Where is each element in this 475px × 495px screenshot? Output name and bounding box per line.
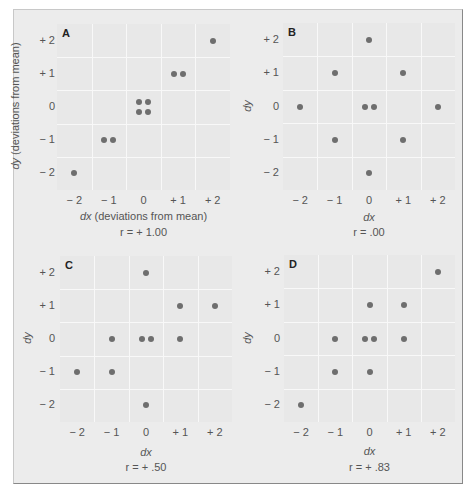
data-point	[298, 402, 304, 408]
data-point	[435, 269, 441, 275]
x-axis-description: (deviations from mean)	[92, 210, 208, 222]
data-point	[109, 369, 115, 375]
data-point	[145, 99, 151, 105]
y-axis-label: dy	[241, 99, 253, 113]
x-tick-label: + 1	[388, 194, 418, 206]
data-point	[332, 369, 338, 375]
data-point	[366, 170, 372, 176]
x-tick-label: 0	[131, 426, 161, 438]
x-tick-label: 0	[355, 426, 385, 438]
grid-line-vertical	[94, 256, 95, 422]
grid-line-vertical	[198, 256, 199, 422]
y-tick-label: − 2	[250, 398, 280, 410]
data-point	[297, 104, 303, 110]
data-point	[212, 303, 218, 309]
plot-area: B	[283, 23, 455, 190]
data-point	[210, 38, 216, 44]
data-point	[362, 104, 368, 110]
grid-line-horizontal	[57, 57, 230, 58]
y-tick-label: + 2	[25, 34, 55, 46]
data-point	[139, 336, 145, 342]
data-point	[177, 336, 183, 342]
y-tick-label: − 2	[25, 398, 55, 410]
y-tick-label: − 1	[25, 133, 55, 145]
data-point	[71, 170, 77, 176]
data-point	[136, 99, 142, 105]
x-tick-label: − 1	[97, 426, 127, 438]
grid-line-vertical	[421, 255, 422, 422]
grid-line-horizontal	[284, 322, 455, 323]
x-axis-label: dx	[269, 211, 469, 223]
y-tick-label: 0	[250, 332, 280, 344]
x-axis-variable: dx	[364, 445, 376, 457]
panel-letter: A	[62, 27, 70, 39]
y-tick-label: + 1	[25, 67, 55, 79]
grid-line-vertical	[92, 24, 93, 190]
x-tick-label: − 1	[320, 426, 350, 438]
x-tick-label: + 1	[163, 194, 193, 206]
x-tick-label: − 2	[286, 426, 316, 438]
data-point	[148, 336, 154, 342]
grid-line-vertical	[421, 23, 422, 190]
plot-area: C	[60, 256, 232, 422]
grid-line-horizontal	[60, 356, 232, 357]
correlation-label: r = .00	[269, 226, 469, 238]
x-tick-label: 0	[129, 194, 159, 206]
correlation-label: r = + .83	[270, 461, 470, 473]
y-tick-label: − 1	[249, 133, 279, 145]
data-point	[143, 402, 149, 408]
panel-letter: D	[289, 258, 297, 270]
data-point	[332, 137, 338, 143]
data-point	[143, 270, 149, 276]
grid-line-horizontal	[283, 90, 455, 91]
x-tick-label: + 1	[165, 426, 195, 438]
grid-line-horizontal	[283, 157, 455, 158]
y-tick-label: + 2	[249, 33, 279, 45]
grid-line-horizontal	[57, 124, 230, 125]
y-axis-label: dy	[241, 331, 253, 345]
data-point	[171, 71, 177, 77]
grid-line-vertical	[161, 24, 162, 190]
y-axis-label: dy	[21, 331, 33, 345]
grid-line-horizontal	[284, 389, 455, 390]
data-point	[366, 37, 372, 43]
data-point	[177, 303, 183, 309]
data-point	[109, 336, 115, 342]
grid-line-vertical	[318, 255, 319, 422]
data-point	[136, 109, 142, 115]
y-tick-label: − 2	[25, 166, 55, 178]
plot-area: A	[57, 24, 230, 190]
y-tick-label: − 1	[250, 365, 280, 377]
x-axis-variable: dx	[80, 210, 92, 222]
y-tick-label: + 2	[25, 266, 55, 278]
data-point	[401, 302, 407, 308]
data-point	[332, 336, 338, 342]
x-tick-label: + 2	[423, 426, 453, 438]
grid-line-vertical	[195, 24, 196, 190]
data-point	[101, 137, 107, 143]
x-tick-label: − 2	[59, 194, 89, 206]
x-tick-label: 0	[354, 194, 384, 206]
grid-line-vertical	[163, 256, 164, 422]
y-axis-description: (deviations from mean)	[9, 42, 21, 158]
data-point	[367, 302, 373, 308]
correlation-label: r = + 1.00	[44, 226, 244, 238]
data-point	[371, 104, 377, 110]
grid-line-vertical	[317, 23, 318, 190]
grid-line-horizontal	[57, 90, 230, 91]
grid-line-horizontal	[60, 322, 232, 323]
grid-line-vertical	[386, 23, 387, 190]
x-tick-label: − 2	[285, 194, 315, 206]
grid-line-vertical	[126, 24, 127, 190]
grid-line-horizontal	[57, 157, 230, 158]
y-tick-label: + 2	[250, 265, 280, 277]
x-tick-label: + 2	[423, 194, 453, 206]
x-tick-label: − 2	[62, 426, 92, 438]
x-axis-label: dx	[270, 445, 470, 457]
correlation-label: r = + .50	[46, 461, 246, 473]
y-axis-variable: dy	[241, 332, 253, 344]
data-point	[74, 369, 80, 375]
grid-line-horizontal	[60, 389, 232, 390]
y-tick-label: + 1	[249, 66, 279, 78]
data-point	[180, 71, 186, 77]
